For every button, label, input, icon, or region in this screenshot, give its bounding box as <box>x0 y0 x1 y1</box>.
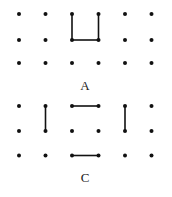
grid-dot <box>44 154 48 158</box>
figure-c <box>17 104 154 158</box>
grid-dot <box>97 38 101 42</box>
grid-dot <box>123 38 127 42</box>
grid-dot <box>70 129 74 133</box>
grid-dot <box>17 104 21 108</box>
grid-dot <box>123 12 127 16</box>
grid-dot <box>97 61 101 65</box>
grid-dot <box>123 104 127 108</box>
grid-dot <box>70 38 74 42</box>
dot-grid-canvas <box>0 0 172 197</box>
grid-dot <box>70 12 74 16</box>
grid-dot <box>150 154 154 158</box>
figure-a <box>17 12 154 65</box>
grid-dot <box>44 61 48 65</box>
grid-dot <box>70 104 74 108</box>
grid-dot <box>123 129 127 133</box>
grid-dot <box>97 12 101 16</box>
grid-dot <box>44 104 48 108</box>
grid-dot <box>44 12 48 16</box>
grid-dot <box>97 104 101 108</box>
grid-dot <box>17 12 21 16</box>
figure-label-a: A <box>80 79 89 92</box>
grid-dot <box>150 38 154 42</box>
dot-grid-figures: A C <box>0 0 172 197</box>
grid-dot <box>17 129 21 133</box>
grid-dot <box>44 129 48 133</box>
grid-dot <box>150 104 154 108</box>
grid-dot <box>150 61 154 65</box>
grid-dot <box>70 154 74 158</box>
figure-label-c: C <box>81 171 90 184</box>
grid-dot <box>123 61 127 65</box>
grid-dot <box>97 129 101 133</box>
grid-dot <box>150 129 154 133</box>
grid-dot <box>97 154 101 158</box>
grid-dot <box>70 61 74 65</box>
grid-dot <box>17 154 21 158</box>
grid-dot <box>17 38 21 42</box>
grid-dot <box>44 38 48 42</box>
grid-dot <box>17 61 21 65</box>
grid-dot <box>150 12 154 16</box>
grid-dot <box>123 154 127 158</box>
